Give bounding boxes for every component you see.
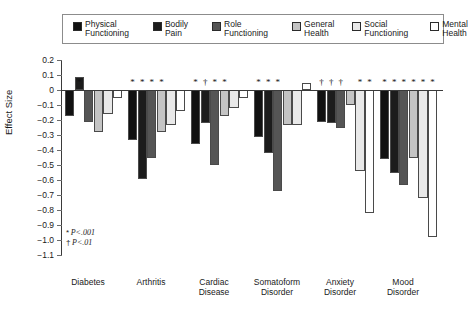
y-axis-tick-label: −1.1 — [0, 251, 54, 260]
legend-swatch-icon — [430, 22, 439, 31]
bar — [302, 83, 311, 91]
x-axis-category-label: Diabetes — [57, 278, 119, 288]
y-axis-tick-label: 0.1 — [0, 71, 54, 80]
x-axis-category-label: Anxiety Disorder — [309, 278, 371, 297]
bar — [418, 90, 427, 198]
bar — [157, 90, 166, 132]
y-axis-tick-label: −0.8 — [0, 206, 54, 215]
x-axis-category-label: Mood Disorder — [372, 278, 434, 297]
x-axis-category-label: Cardiac Disease — [183, 278, 245, 297]
legend-swatch-icon — [292, 22, 301, 31]
zero-baseline-line — [61, 90, 443, 91]
bar — [254, 90, 263, 137]
bar — [327, 90, 336, 123]
bar — [103, 90, 112, 114]
bar — [399, 90, 408, 185]
legend-swatch-icon — [212, 22, 221, 31]
legend-label: General Health — [304, 20, 334, 39]
y-axis-tick-label: −0.1 — [0, 101, 54, 110]
y-axis-tick — [57, 180, 62, 181]
legend-label: Social Functioning — [364, 20, 408, 39]
bar — [317, 90, 326, 122]
y-axis-tick — [57, 105, 62, 106]
y-axis-tick-label: −0.2 — [0, 116, 54, 125]
bar — [84, 90, 93, 122]
y-axis-tick — [57, 60, 62, 61]
y-axis-tick-label: 0 — [0, 86, 54, 95]
y-axis-tick — [57, 195, 62, 196]
bar — [220, 90, 229, 116]
significance-marker: * — [272, 77, 283, 87]
significance-marker: * — [219, 77, 230, 87]
y-axis-tick — [57, 240, 62, 241]
bar — [138, 90, 147, 179]
legend-item-role-functioning: Role Functioning — [208, 20, 268, 39]
y-axis-tick — [57, 165, 62, 166]
y-axis-tick — [57, 210, 62, 211]
bar — [229, 90, 238, 108]
bar — [365, 90, 374, 213]
note-line-1: * P<.001 — [66, 228, 95, 238]
bar — [292, 90, 301, 125]
bar — [346, 90, 355, 105]
y-axis-tick-label: −0.5 — [0, 161, 54, 170]
y-axis-tick-label: −0.7 — [0, 191, 54, 200]
note-text: P<.01 — [72, 238, 92, 247]
legend-label: Bodily Pain — [165, 20, 188, 39]
bar — [166, 90, 175, 125]
legend-item-mental-health: Mental Health — [426, 20, 468, 39]
y-axis-tick — [57, 120, 62, 121]
legend-swatch-icon — [153, 22, 162, 31]
y-axis-tick — [57, 135, 62, 136]
legend-item-physical-functioning: Physical Functioning — [69, 20, 129, 39]
bar — [273, 90, 282, 191]
x-axis-category-label: Somatoform Disorder — [246, 278, 308, 297]
significance-marker: * — [427, 77, 438, 87]
chart-legend: Physical Functioning Bodily Pain Role Fu… — [62, 14, 444, 44]
note-text: P<.001 — [71, 228, 95, 237]
significance-marker: * — [364, 77, 375, 87]
bar — [264, 90, 273, 153]
legend-label: Physical Functioning — [85, 20, 129, 39]
bar — [428, 90, 437, 237]
y-axis-tick-label: −0.6 — [0, 176, 54, 185]
bar — [336, 90, 345, 128]
significance-marker: * — [74, 77, 85, 87]
y-axis-tick — [57, 75, 62, 76]
legend-swatch-icon — [352, 22, 361, 31]
bar — [390, 90, 399, 173]
bar — [147, 90, 156, 158]
y-axis-title: Effect Size — [3, 90, 14, 135]
bar — [128, 90, 137, 140]
y-axis-tick-label: −0.4 — [0, 146, 54, 155]
note-marker: † — [66, 238, 70, 247]
bar — [191, 90, 200, 144]
legend-swatch-icon — [73, 22, 82, 31]
significance-marker: * — [156, 77, 167, 87]
y-axis-tick-label: 0.2 — [0, 56, 54, 65]
y-axis-tick-label: −1.0 — [0, 236, 54, 245]
legend-label: Mental Health — [442, 20, 468, 39]
y-axis-tick — [57, 150, 62, 151]
legend-label: Role Functioning — [224, 20, 268, 39]
y-axis-tick-label: −0.9 — [0, 221, 54, 230]
bar — [94, 90, 103, 132]
legend-item-general-health: General Health — [288, 20, 334, 39]
x-axis-category-label: Arthritis — [120, 278, 182, 288]
bar — [201, 90, 210, 123]
bar — [176, 90, 185, 111]
bar — [283, 90, 292, 125]
bar — [355, 90, 364, 171]
bar — [380, 90, 389, 159]
legend-item-bodily-pain: Bodily Pain — [149, 20, 188, 39]
significance-notes: * P<.001 † P<.01 — [66, 228, 95, 247]
bar — [65, 90, 74, 116]
y-axis-tick — [57, 225, 62, 226]
note-marker: * — [66, 228, 69, 237]
y-axis-tick — [57, 255, 62, 256]
note-line-2: † P<.01 — [66, 238, 95, 248]
y-axis-tick-label: −0.3 — [0, 131, 54, 140]
bar — [210, 90, 219, 165]
legend-item-social-functioning: Social Functioning — [348, 20, 408, 39]
